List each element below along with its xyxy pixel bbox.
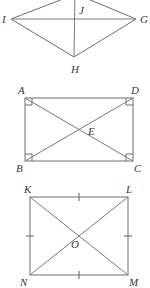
square-klmn-figure — [26, 193, 132, 279]
vertex-label-m: M — [128, 276, 139, 288]
vertex-label-l: L — [125, 183, 132, 195]
vertex-label-a: A — [17, 84, 25, 96]
vertex-label-h: H — [70, 63, 80, 75]
geometry-diagram-canvas: I J G H A D B C E K L N M O — [0, 0, 150, 288]
rectangle-abcd-figure — [25, 98, 133, 161]
vertex-label-o: O — [71, 238, 79, 250]
vertex-label-i: I — [1, 13, 7, 25]
vertex-label-n: N — [19, 276, 28, 288]
kite-ijgh-figure — [11, 0, 136, 57]
kite-outline — [11, 0, 136, 57]
vertex-label-b: B — [16, 162, 23, 174]
vertex-label-c: C — [134, 162, 142, 174]
kite-diagonal-jh — [74, 0, 75, 57]
vertex-label-k: K — [23, 183, 32, 195]
vertex-label-d: D — [130, 84, 139, 96]
vertex-label-j: J — [79, 4, 85, 16]
geometry-figure-sheet: I J G H A D B C E K L N M O — [0, 0, 150, 288]
vertex-label-g: G — [140, 13, 148, 25]
vertex-label-e: E — [87, 125, 95, 137]
